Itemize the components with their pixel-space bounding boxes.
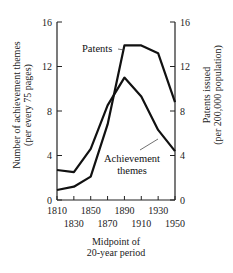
x-tick-label: 1810 [47, 205, 67, 216]
x-tick-label: 1850 [81, 205, 101, 216]
x-axis-title: Midpoint of [92, 236, 141, 247]
y-right-tick-label: 8 [180, 106, 185, 117]
x-tick-label: 1830 [64, 218, 84, 229]
labels: 0481216048121618101850189019301830187019… [11, 17, 224, 259]
line-chart: 0481216048121618101850189019301830187019… [0, 0, 233, 273]
y-left-axis-title: Number of achievement themes [11, 41, 22, 169]
achievement-annotation: Achievement [104, 153, 160, 164]
x-axis-title: 20-year period [87, 247, 146, 258]
y-left-tick-label: 0 [47, 195, 52, 206]
patents-annotation: Patents [82, 43, 112, 54]
y-right-axis-title: Patents issued [201, 67, 212, 123]
achievement-leader-line [140, 139, 158, 150]
y-right-tick-label: 16 [180, 17, 190, 28]
y-left-tick-label: 4 [47, 150, 52, 161]
y-right-tick-label: 4 [180, 150, 185, 161]
y-right-axis-title: (per 200,000 population) [212, 45, 224, 145]
y-left-tick-label: 16 [42, 17, 52, 28]
x-tick-label: 1950 [165, 218, 185, 229]
axes [57, 22, 175, 200]
series-line-patents [57, 45, 175, 190]
x-tick-label: 1890 [114, 205, 134, 216]
achievement-annotation: themes [117, 165, 147, 176]
y-right-tick-label: 12 [180, 61, 190, 72]
y-left-tick-label: 12 [42, 61, 52, 72]
x-tick-label: 1930 [148, 205, 168, 216]
x-tick-label: 1910 [131, 218, 151, 229]
y-right-tick-label: 0 [180, 195, 185, 206]
x-tick-label: 1870 [98, 218, 118, 229]
data-lines [57, 45, 175, 190]
y-left-tick-label: 8 [47, 106, 52, 117]
y-left-axis-title: (per every 75 pages) [22, 64, 34, 146]
